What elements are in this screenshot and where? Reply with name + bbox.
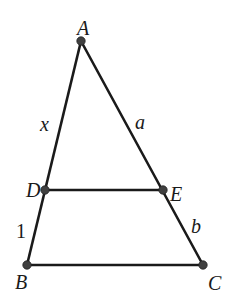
point-E [159, 186, 167, 194]
label-DB-length: 1 [16, 220, 26, 242]
label-AD-length: x [39, 113, 49, 135]
segments [27, 41, 203, 265]
point-D [41, 186, 49, 194]
point-B [23, 261, 31, 269]
segment-AC [81, 41, 203, 265]
point-C [199, 261, 207, 269]
segment-labels: x a 1 b [16, 111, 201, 242]
label-A: A [75, 17, 90, 39]
segment-AB [27, 41, 81, 265]
vertex-labels: A D E B C [15, 17, 222, 294]
label-EC-length: b [191, 215, 201, 237]
label-B: B [15, 271, 27, 293]
label-C: C [208, 272, 222, 294]
triangle-diagram: A D E B C x a 1 b [0, 0, 233, 298]
label-D: D [25, 179, 41, 201]
label-AE-length: a [135, 111, 145, 133]
label-E: E [169, 183, 182, 205]
points [23, 37, 207, 269]
